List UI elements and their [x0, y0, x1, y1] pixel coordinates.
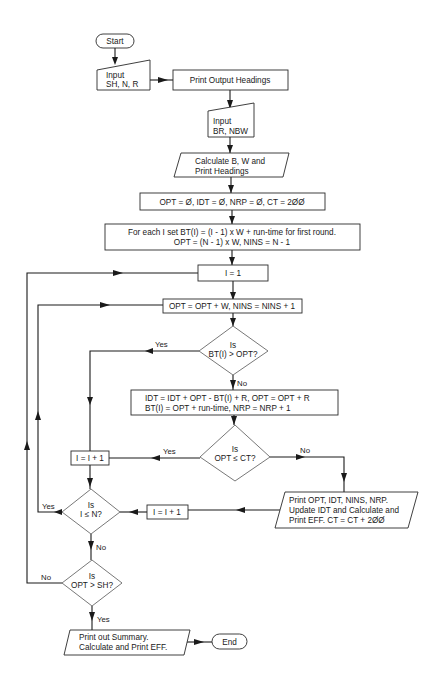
calculate-line1: Calculate B, W and: [195, 157, 266, 166]
decision-n-line1: Is: [88, 501, 94, 510]
arrow-icon: [230, 318, 236, 326]
summary-line2: Calculate and Print EFF.: [79, 643, 167, 652]
arrow-icon: [129, 509, 138, 515]
flowchart: Start Input SH, N, R Print Output Headin…: [0, 0, 439, 689]
opt-update-label: OPT = OPT + W, NINS = NINS + 1: [169, 302, 296, 311]
decision-bt-gt-opt: Is BT(I) > OPT?: [199, 326, 268, 375]
decision-ct-line2: OPT ≤ CT?: [214, 454, 256, 463]
decision-bt-no-label: No: [237, 379, 248, 388]
arrow-icon: [158, 77, 168, 83]
arrow-icon: [227, 145, 233, 153]
input-sh-n-r: Input SH, N, R: [97, 60, 150, 90]
decision-n-yes-label: Yes: [42, 502, 55, 511]
increment-middle-box: I = I + 1: [147, 505, 188, 519]
set-i-box: I = 1: [198, 265, 268, 281]
arrow-icon: [145, 348, 153, 354]
arrow-icon: [54, 509, 62, 515]
decision-ct-line1: Is: [232, 445, 238, 454]
print-stats-parallelogram: Print OPT, IDT, NINS, NRP. Update IDT an…: [275, 492, 418, 528]
decision-sh-line1: Is: [89, 572, 95, 581]
arrow-icon: [24, 441, 30, 450]
idt-update-line2: BT(I) = OPT + run-time, NRP = NRP + 1: [145, 404, 291, 413]
idt-update-line1: IDT = IDT + OPT - BT(I) + R, OPT = OPT +…: [145, 394, 310, 403]
end-label: End: [222, 638, 237, 647]
for-each-box: For each I set BT(I) = (I - 1) x W + run…: [105, 224, 360, 250]
connector-decisionsh-no: [27, 273, 198, 583]
arrow-icon: [112, 57, 118, 65]
calculate-parallelogram: Calculate B, W and Print Headings: [174, 153, 289, 177]
start-label: Start: [106, 37, 124, 46]
print-stats-line3: Print EFF. CT = CT + 2ØØ: [289, 516, 385, 525]
print-output-headings-box: Print Output Headings: [173, 70, 288, 90]
incr-upper-label: I = I + 1: [76, 454, 104, 463]
decision-n-no-label: No: [96, 543, 107, 552]
decision-sh-line2: OPT > SH?: [71, 581, 113, 590]
connector-decisionct-no: [270, 457, 344, 492]
arrow-icon: [230, 380, 236, 389]
decision-bt-yes-label: Yes: [155, 340, 168, 349]
init-label: OPT = Ø, IDT = Ø, NRP = Ø, CT = 2ØØ: [160, 198, 306, 207]
start-terminator: Start: [96, 34, 134, 48]
for-each-line2: OPT = (N - 1) x W, NINS = N - 1: [174, 238, 291, 247]
decision-i-le-n: Is I ≤ N?: [62, 489, 120, 534]
arrow-icon: [100, 302, 110, 308]
end-terminator: End: [212, 634, 247, 649]
arrow-icon: [228, 185, 234, 193]
decision-bt-line2: BT(I) > OPT?: [209, 350, 258, 359]
input1-line1: Input: [106, 71, 125, 80]
decision-n-line2: I ≤ N?: [80, 510, 102, 519]
init-box: OPT = Ø, IDT = Ø, NRP = Ø, CT = 2ØØ: [140, 193, 325, 210]
decision-bt-line1: Is: [230, 341, 236, 350]
opt-update-box: OPT = OPT + W, NINS = NINS + 1: [163, 299, 302, 313]
arrow-icon: [231, 416, 237, 425]
arrow-icon: [236, 507, 245, 513]
incr-middle-label: I = I + 1: [153, 508, 181, 517]
arrow-icon: [341, 473, 347, 482]
summary-parallelogram: Print out Summary. Calculate and Print E…: [64, 630, 190, 655]
calculate-line2: Print Headings: [195, 167, 249, 176]
arrow-icon: [229, 257, 235, 265]
input1-line2: SH, N, R: [106, 80, 138, 89]
input2-line1: Input: [213, 117, 232, 126]
arrow-icon: [151, 455, 160, 461]
arrow-icon: [87, 478, 93, 487]
decision-sh-yes-label: Yes: [97, 615, 110, 624]
input2-line2: BR, NBW: [213, 127, 248, 136]
print-stats-line2: Update IDT and Calculate and: [289, 506, 399, 515]
arrow-icon: [89, 612, 95, 621]
decision-opt-le-ct: Is OPT ≤ CT?: [200, 425, 270, 481]
print-stats-line1: Print OPT, IDT, NINS, NRP.: [289, 496, 388, 505]
increment-upper-box: I = I + 1: [71, 451, 109, 465]
arrow-icon: [113, 270, 123, 276]
idt-update-box: IDT = IDT + OPT - BT(I) + R, OPT = OPT +…: [131, 390, 338, 415]
arrow-icon: [88, 541, 94, 550]
arrow-icon: [35, 411, 41, 420]
input-br-nbw: Input BR, NBW: [208, 103, 254, 137]
arrow-icon: [87, 397, 93, 405]
for-each-line1: For each I set BT(I) = (I - 1) x W + run…: [128, 228, 336, 237]
print-headings-label: Print Output Headings: [190, 76, 271, 85]
decision-opt-gt-sh: Is OPT > SH?: [62, 560, 122, 606]
decision-sh-no-label: No: [41, 573, 52, 582]
arrow-icon: [229, 216, 235, 224]
set-i-label: I = 1: [225, 269, 242, 278]
arrow-icon: [194, 639, 204, 645]
summary-line1: Print out Summary.: [79, 633, 148, 642]
decision-ct-yes-label: Yes: [163, 447, 176, 456]
decision-ct-no-label: No: [300, 446, 311, 455]
connectors: [24, 48, 347, 645]
